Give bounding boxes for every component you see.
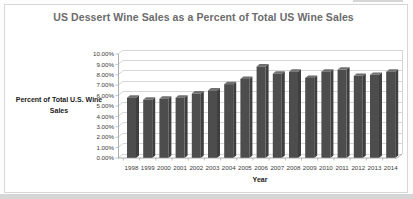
x-tick-label: 2007 xyxy=(270,164,284,171)
bar-2005 xyxy=(240,79,249,158)
bar-side-1999 xyxy=(152,97,155,158)
bar-side-2008 xyxy=(298,69,301,158)
bar-side-2000 xyxy=(168,96,171,158)
bar-2012 xyxy=(354,76,363,158)
y-tick-label: 3.00% xyxy=(96,123,114,130)
chart-photo: US Dessert Wine Sales as a Percent of To… xyxy=(0,0,413,199)
x-tick-label: 2009 xyxy=(303,164,317,171)
bar-2001 xyxy=(176,98,185,158)
gridline-depth-connector xyxy=(118,123,123,127)
gridline-depth-connector xyxy=(118,112,123,116)
bar-2009 xyxy=(305,78,314,158)
x-tick-label: 1999 xyxy=(141,164,155,171)
x-tick-label: 2008 xyxy=(287,164,301,171)
bar-side-2012 xyxy=(363,73,366,158)
bar-2011 xyxy=(338,70,347,158)
gridline-depth-connector xyxy=(118,133,123,137)
bar-side-2003 xyxy=(217,88,220,158)
bar-side-2005 xyxy=(249,77,252,158)
bar-2013 xyxy=(370,75,379,158)
gridline-depth-connector xyxy=(118,144,123,148)
y-tick-label: 9.00% xyxy=(96,61,114,68)
bar-2006 xyxy=(257,66,266,158)
bar-side-2009 xyxy=(314,76,317,158)
y-tick-label: 8.00% xyxy=(96,71,114,78)
gridline-depth-connector xyxy=(118,92,123,96)
bar-side-2014 xyxy=(395,69,398,158)
x-tick-label: 2010 xyxy=(319,164,333,171)
bar-side-1998 xyxy=(136,95,139,158)
y-tick-label: 2.00% xyxy=(96,133,114,140)
x-tick-label: 2006 xyxy=(254,164,268,171)
x-tick-label: 2000 xyxy=(157,164,171,171)
x-tick-label: 2001 xyxy=(173,164,187,171)
x-tick-label: 2003 xyxy=(206,164,220,171)
bar-side-2001 xyxy=(185,95,188,158)
x-tick-label: 2012 xyxy=(351,164,365,171)
gridline-depth-connector xyxy=(118,50,123,54)
bar-2000 xyxy=(159,99,168,158)
gridline-depth-connector xyxy=(118,71,123,75)
y-tick-label: 4.00% xyxy=(96,113,114,120)
x-tick-label: 2002 xyxy=(189,164,203,171)
gridline-depth-connector xyxy=(118,102,123,106)
bar-side-2002 xyxy=(201,91,204,158)
x-tick-label: 2013 xyxy=(368,164,382,171)
y-tick-label: 10.00% xyxy=(93,50,114,57)
bar-side-2004 xyxy=(233,82,236,158)
bar-side-2010 xyxy=(330,69,333,158)
bar-2003 xyxy=(208,90,217,158)
bar-2010 xyxy=(321,72,330,158)
y-tick-label: 1.00% xyxy=(96,144,114,151)
bar-2004 xyxy=(224,84,233,158)
bar-2007 xyxy=(273,74,282,158)
bar-2002 xyxy=(192,94,201,158)
bar-side-2011 xyxy=(347,67,350,158)
bar-2014 xyxy=(386,72,395,158)
x-axis-title: Year xyxy=(118,176,402,183)
y-tick-label: 6.00% xyxy=(96,92,114,99)
bar-side-2006 xyxy=(266,64,269,158)
bar-side-2007 xyxy=(282,71,285,158)
x-tick-label: 2005 xyxy=(238,164,252,171)
bar-2008 xyxy=(289,72,298,158)
x-tick-label: 2004 xyxy=(222,164,236,171)
photo-bottom-edge xyxy=(0,194,413,199)
gridline-depth-connector xyxy=(118,60,123,64)
gridline-depth-connector xyxy=(118,154,123,158)
y-tick-label: 0.00% xyxy=(96,154,114,161)
gridline-depth-connector xyxy=(118,81,123,85)
x-tick-label: 2014 xyxy=(384,164,398,171)
y-tick-label: 5.00% xyxy=(96,102,114,109)
bar-side-2013 xyxy=(379,72,382,158)
x-tick-label: 1998 xyxy=(125,164,139,171)
bar-1998 xyxy=(127,98,136,158)
x-tick-label: 2011 xyxy=(335,164,349,171)
bar-1999 xyxy=(143,100,152,158)
bar-chart-plot-area: 0.00%1.00%2.00%3.00%4.00%5.00%6.00%7.00%… xyxy=(0,0,413,199)
y-tick-label: 7.00% xyxy=(96,81,114,88)
